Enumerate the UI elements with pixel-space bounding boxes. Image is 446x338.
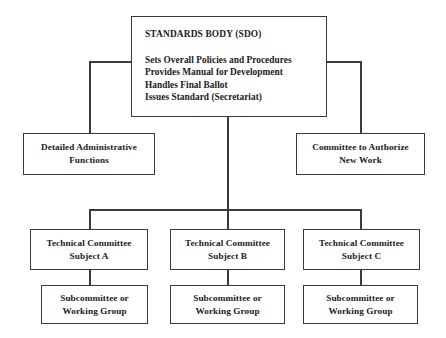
node-detailed-administrative-functions-line-1: Detailed Administrative (24, 141, 154, 154)
connector-tc-b-to-sub-b (227, 269, 229, 286)
connector-bus-drop-c (360, 209, 362, 230)
node-subcommittee-working-group-b-line-2: Working Group (171, 305, 284, 318)
node-subcommittee-working-group-a-line-1: Subcommittee or (42, 292, 147, 305)
node-subcommittee-working-group-a-line-2: Working Group (42, 305, 147, 318)
connector-technical-bus (89, 209, 362, 211)
connector-tc-a-to-sub-a (89, 269, 91, 286)
org-chart-canvas: STANDARDS BODY (SDO) Sets Overall Polici… (0, 0, 446, 338)
node-committee-to-authorize-new-work-line-1: Committee to Authorize (297, 141, 424, 154)
node-subcommittee-working-group-c: Subcommittee or Working Group (303, 285, 418, 324)
node-technical-committee-subject-b-line-1: Technical Committee (171, 237, 284, 250)
node-subcommittee-working-group-c-line-1: Subcommittee or (304, 292, 417, 305)
node-committee-to-authorize-new-work: Committee to Authorize New Work (296, 133, 425, 175)
node-standards-body-duty-3: Handles Final Ballot (145, 79, 326, 91)
node-technical-committee-subject-c: Technical Committee Subject C (303, 229, 420, 270)
node-technical-committee-subject-a-line-2: Subject A (31, 250, 147, 263)
node-detailed-administrative-functions-line-2: Functions (24, 154, 154, 167)
node-subcommittee-working-group-b-line-1: Subcommittee or (171, 292, 284, 305)
node-technical-committee-subject-a-line-1: Technical Committee (31, 237, 147, 250)
node-subcommittee-working-group-b: Subcommittee or Working Group (170, 285, 285, 324)
connector-tc-c-to-sub-c (360, 269, 362, 286)
node-subcommittee-working-group-a: Subcommittee or Working Group (41, 285, 148, 324)
node-detailed-administrative-functions: Detailed Administrative Functions (23, 133, 155, 175)
node-technical-committee-subject-b: Technical Committee Subject B (170, 229, 285, 270)
node-technical-committee-subject-b-line-2: Subject B (171, 250, 284, 263)
node-standards-body-heading: STANDARDS BODY (SDO) (145, 28, 326, 40)
node-standards-body-duty-4: Issues Standard (Secretariat) (145, 91, 326, 103)
node-standards-body-duty-1: Sets Overall Policies and Procedures (145, 54, 326, 66)
node-technical-committee-subject-c-line-2: Subject C (304, 250, 419, 263)
node-technical-committee-subject-c-line-1: Technical Committee (304, 237, 419, 250)
node-standards-body: STANDARDS BODY (SDO) Sets Overall Polici… (131, 16, 327, 117)
node-subcommittee-working-group-c-line-2: Working Group (304, 305, 417, 318)
node-standards-body-duty-2: Provides Manual for Development (145, 66, 326, 78)
connector-bus-drop-b (227, 209, 229, 230)
connector-root-left-drop (89, 61, 91, 134)
connector-root-center-spine (227, 116, 229, 210)
node-technical-committee-subject-a: Technical Committee Subject A (30, 229, 148, 270)
connector-root-left-stub (89, 61, 132, 63)
connector-root-right-drop (360, 61, 362, 134)
node-committee-to-authorize-new-work-line-2: New Work (297, 154, 424, 167)
connector-bus-drop-a (89, 209, 91, 230)
connector-root-right-stub (326, 61, 361, 63)
